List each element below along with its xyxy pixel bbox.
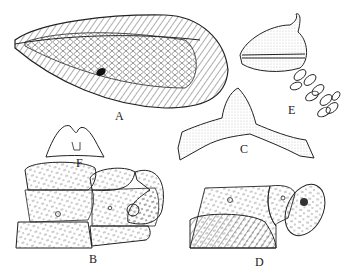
panel-label-b: B	[89, 253, 97, 265]
panel-label-f: F	[76, 157, 83, 169]
panel-label-c: C	[240, 143, 248, 155]
panel-d-terminalia	[190, 178, 333, 248]
panel-label-d: D	[255, 256, 264, 268]
panel-a-forewing	[15, 15, 228, 108]
panel-b-terminalia	[16, 162, 163, 248]
panel-label-e: E	[288, 104, 295, 116]
panel-label-a: A	[115, 110, 124, 122]
panel-f-sclerite	[46, 126, 104, 157]
morphology-figure	[0, 0, 351, 273]
